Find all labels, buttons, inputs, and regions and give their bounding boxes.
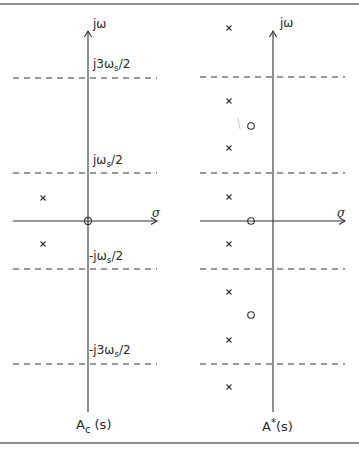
label-neg-j3ws-over-2: -j3ωs/2 xyxy=(89,344,131,359)
label-jws-over-2: jωs/2 xyxy=(93,154,123,169)
label-text: jω xyxy=(93,153,106,167)
left-plot-caption: Ac (s) xyxy=(76,417,111,435)
caption-text: (s) xyxy=(90,417,111,432)
right-plot-caption: A*(s) xyxy=(262,417,293,434)
right-pole-marker xyxy=(227,242,232,247)
left-pole-marker xyxy=(41,242,46,247)
right-pole-marker xyxy=(227,290,232,295)
label-text: -jω xyxy=(89,249,107,263)
left-pole-marker xyxy=(41,196,46,201)
label-text: /2 xyxy=(111,153,123,167)
pole-zero-diagram xyxy=(0,0,359,451)
left-real-axis-label: σ xyxy=(152,207,160,219)
label-text: j3ω xyxy=(93,57,114,71)
label-text: /2 xyxy=(119,343,131,357)
label-j3ws-over-2: j3ωs/2 xyxy=(93,58,130,73)
right-zero-marker xyxy=(248,312,255,319)
right-pole-marker xyxy=(227,99,232,104)
caption-text: (s) xyxy=(276,419,293,434)
right-pole-marker xyxy=(227,195,232,200)
label-text: /2 xyxy=(111,249,123,263)
right-zero-marker xyxy=(248,123,255,130)
caption-text: A xyxy=(262,419,271,434)
stray-mark xyxy=(238,118,240,129)
right-pole-marker xyxy=(227,338,232,343)
right-pole-marker xyxy=(227,26,232,31)
right-s-plane xyxy=(200,26,345,413)
caption-text: A xyxy=(76,417,85,432)
label-neg-jws-over-2: -jωs/2 xyxy=(89,250,123,265)
right-pole-marker xyxy=(227,385,232,390)
right-imag-axis-label: jω xyxy=(280,17,293,29)
label-text: -j3ω xyxy=(89,343,114,357)
right-real-axis-label: σ xyxy=(337,207,345,219)
label-text: /2 xyxy=(119,57,131,71)
left-imag-axis-label: jω xyxy=(93,18,106,30)
right-pole-marker xyxy=(227,146,232,151)
left-s-plane xyxy=(13,31,157,412)
